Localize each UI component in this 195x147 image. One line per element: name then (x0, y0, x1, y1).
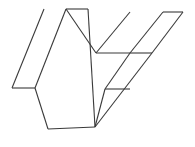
line-drawing-figure: Isometric wireframe of a Z-shaped (hat) … (0, 0, 195, 147)
wireframe-svg: Isometric wireframe of a Z-shaped (hat) … (0, 0, 195, 147)
